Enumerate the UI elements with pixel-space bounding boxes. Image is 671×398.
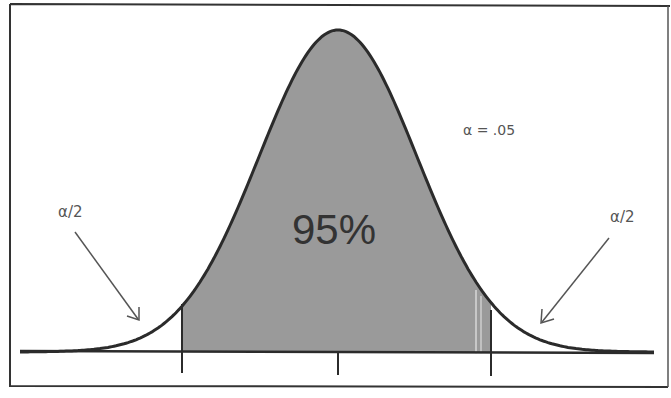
left-tail-arrow	[75, 232, 139, 320]
right-tail-arrow	[541, 238, 609, 323]
x-axis	[20, 351, 654, 353]
alpha-label: α = .05	[463, 122, 515, 138]
shaded-95-region	[182, 30, 491, 352]
right-tail-label: α/2	[610, 208, 635, 226]
left-tail-label: α/2	[58, 203, 83, 221]
confidence-percent-label: 95%	[292, 206, 376, 254]
normal-distribution-diagram	[0, 0, 671, 398]
